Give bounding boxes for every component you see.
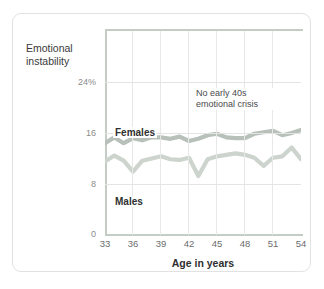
gridline-horizontal (105, 82, 301, 83)
x-axis-title: Age in years (105, 257, 301, 270)
x-tick-label: 42 (178, 238, 200, 249)
series-label-females: Females (113, 127, 157, 138)
x-tick-label: 33 (94, 238, 116, 249)
y-axis-title: Emotionalinstability (26, 42, 106, 67)
x-tick-label: 36 (122, 238, 144, 249)
chart-annotation: No early 40semotional crisis (196, 88, 292, 110)
annotation-line1: No early 40s (196, 88, 247, 98)
y-tick-label: 16 (62, 128, 96, 138)
y-axis-title-line1: Emotional (26, 42, 73, 54)
series-label-males: Males (113, 196, 145, 207)
y-axis-title-line2: instability (26, 55, 69, 67)
x-tick-label: 48 (234, 238, 256, 249)
y-tick-label: 0 (62, 229, 96, 239)
y-tick-label: 24% (62, 77, 96, 87)
x-tick-label: 45 (206, 238, 228, 249)
chart-figure: Emotionalinstability 24% 16 8 0 33 36 39… (0, 0, 324, 289)
annotation-line2: emotional crisis (196, 99, 258, 109)
x-tick-label: 54 (290, 238, 312, 249)
gridline-horizontal (105, 184, 301, 185)
x-tick-label: 51 (262, 238, 284, 249)
x-tick-label: 39 (150, 238, 172, 249)
y-tick-label: 8 (62, 179, 96, 189)
